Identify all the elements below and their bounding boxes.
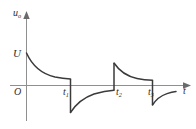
tick-label-t2: t2 xyxy=(116,87,122,98)
x-axis-label: t xyxy=(183,86,186,96)
y-axis-arrowhead xyxy=(23,11,29,19)
tick-label-t2-subscript: 2 xyxy=(119,91,122,98)
y-axis-label-subscript: o xyxy=(18,12,21,19)
tick-label-t1-subscript: 1 xyxy=(66,91,69,98)
tick-label-t3-subscript: 3 xyxy=(151,91,154,98)
curve-decay-initial xyxy=(27,53,71,79)
tick-label-t1: t1 xyxy=(63,87,69,98)
origin-label: O xyxy=(14,87,21,97)
waveform-figure: uo U O t1 t2 t3 t xyxy=(0,0,196,129)
y-axis-label: uo xyxy=(13,8,21,19)
curve-rise-t1-t2 xyxy=(71,90,115,112)
curve-rise-after-t3 xyxy=(153,92,177,105)
y-value-label-U: U xyxy=(13,48,21,59)
tick-label-t3: t3 xyxy=(148,87,154,98)
curve-decay-t2-t3 xyxy=(114,63,153,80)
waveform-canvas xyxy=(0,0,196,129)
